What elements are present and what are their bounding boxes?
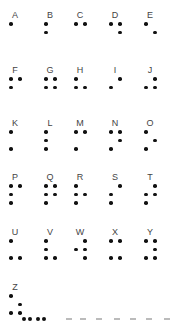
- letter-label: N: [105, 118, 125, 128]
- braille-dot-1: [44, 184, 48, 188]
- braille-dot-4: [18, 77, 22, 81]
- letter-label: Z: [5, 282, 25, 292]
- letter-label: J: [140, 65, 160, 75]
- braille-cell-e: E: [140, 10, 170, 55]
- braille-cell-x: X: [105, 227, 135, 272]
- braille-dot-3: [9, 147, 13, 151]
- braille-dot-5: [118, 139, 122, 143]
- braille-dot-1: [74, 130, 78, 134]
- letter-label: F: [5, 65, 25, 75]
- braille-dot-2: [144, 86, 148, 90]
- braille-dot-2: [74, 86, 78, 90]
- braille-dot-1: [9, 239, 13, 243]
- letter-label: C: [70, 10, 90, 20]
- braille-dot-1: [74, 22, 78, 26]
- braille-dot-1: [109, 22, 113, 26]
- braille-dot-3: [9, 256, 13, 260]
- braille-cell-g: G: [40, 65, 70, 110]
- letter-label: S: [105, 172, 125, 182]
- braille-dot-5: [83, 193, 87, 197]
- letter-label: T: [140, 172, 160, 182]
- faded-mark: [80, 318, 86, 320]
- braille-dot-6: [83, 256, 87, 260]
- braille-dot-1: [144, 239, 148, 243]
- braille-dot-5: [83, 86, 87, 90]
- braille-dot-5: [53, 86, 57, 90]
- braille-dot-4: [53, 77, 57, 81]
- braille-dot-3: [44, 147, 48, 151]
- braille-dot-5: [53, 193, 57, 197]
- braille-dot-2: [9, 86, 13, 90]
- braille-dot-3: [44, 256, 48, 260]
- letter-label: M: [70, 118, 90, 128]
- braille-dot-5: [83, 248, 87, 252]
- braille-dot-4: [18, 184, 22, 188]
- braille-dot-1: [109, 130, 113, 134]
- braille-dot-3: [44, 201, 48, 205]
- braille-dot-6: [118, 256, 122, 260]
- braille-dot-2: [44, 31, 48, 35]
- braille-dot-2: [44, 193, 48, 197]
- faded-mark: [96, 318, 102, 320]
- braille-dot-5: [118, 31, 122, 35]
- braille-dot-2: [44, 248, 48, 252]
- braille-dot-2: [44, 139, 48, 143]
- braille-dot-5: [18, 303, 22, 307]
- braille-dot-4: [118, 130, 122, 134]
- letter-label: W: [70, 227, 90, 237]
- braille-dot-1: [9, 77, 13, 81]
- braille-dot-3: [109, 147, 113, 151]
- braille-cell-c: C: [70, 10, 100, 55]
- braille-dot: [22, 317, 26, 321]
- braille-dot-3: [144, 147, 148, 151]
- braille-dot-2: [9, 193, 13, 197]
- braille-dot-2: [74, 193, 78, 197]
- braille-dot-6: [53, 256, 57, 260]
- braille-dot-3: [144, 256, 148, 260]
- braille-dot-5: [153, 139, 157, 143]
- letter-label: U: [5, 227, 25, 237]
- braille-cell-s: S: [105, 172, 135, 217]
- braille-cell-k: K: [5, 118, 35, 163]
- braille-cell-n: N: [105, 118, 135, 163]
- braille-dot-4: [118, 239, 122, 243]
- braille-dot-4: [83, 130, 87, 134]
- letter-label: A: [5, 10, 25, 20]
- letter-label: E: [140, 10, 160, 20]
- braille-dot-4: [53, 184, 57, 188]
- braille-dot-2: [74, 248, 78, 252]
- braille-cell-i: I: [105, 65, 135, 110]
- letter-label: X: [105, 227, 125, 237]
- letter-label: R: [70, 172, 90, 182]
- braille-cell-u: U: [5, 227, 35, 272]
- braille-cell-j: J: [140, 65, 170, 110]
- braille-dot-5: [153, 31, 157, 35]
- braille-dot-1: [9, 184, 13, 188]
- braille-dot-1: [109, 239, 113, 243]
- braille-dot-4: [83, 239, 87, 243]
- braille-cell-a: A: [5, 10, 35, 55]
- letter-label: G: [40, 65, 60, 75]
- braille-dot-2: [109, 193, 113, 197]
- braille-dot-3: [109, 256, 113, 260]
- braille-dot-6: [153, 256, 157, 260]
- braille-dot-6: [18, 256, 22, 260]
- braille-dot-3: [74, 147, 78, 151]
- letter-label: O: [140, 118, 160, 128]
- braille-dot-1: [144, 130, 148, 134]
- braille-dot-1: [9, 130, 13, 134]
- braille-dot-4: [153, 184, 157, 188]
- braille-dot: [42, 317, 46, 321]
- braille-dot-1: [9, 294, 13, 298]
- letter-label: H: [70, 65, 90, 75]
- braille-dot-2: [109, 86, 113, 90]
- braille-cell-w: W: [70, 227, 100, 272]
- braille-cell-d: D: [105, 10, 135, 55]
- braille-dot-5: [153, 193, 157, 197]
- faded-mark: [66, 318, 72, 320]
- faded-mark: [130, 318, 136, 320]
- braille-cell-y: Y: [140, 227, 170, 272]
- braille-cell-t: T: [140, 172, 170, 217]
- letter-label: K: [5, 118, 25, 128]
- braille-cell-l: L: [40, 118, 70, 163]
